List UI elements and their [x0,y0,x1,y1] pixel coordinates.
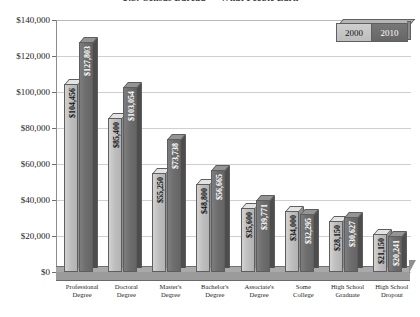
bar-2010-bachelor-s-degree[interactable]: $56,665 [211,170,225,272]
legend: 2000 2010 [336,19,410,43]
bar-2010-associate-s-degree[interactable]: $39,771 [256,200,270,272]
x-axis-label-line: Dropout [364,291,420,299]
bar-group: $34,000$32,295 [277,20,321,272]
bar-group: $21,150$20,241 [366,20,410,272]
bar-value-label: $104,456 [66,88,80,118]
bar-face: $28,150 [329,221,343,272]
y-axis-tick-label: $100,000 [16,87,50,97]
bar-value-label: $35,600 [243,212,257,238]
y-axis-tick-label: $40,000 [21,195,50,205]
legend-item-2010[interactable]: 2010 [372,24,407,41]
y-axis: $140,000$120,000$100,000$80,000$60,000$4… [0,0,54,317]
bar-value-label: $34,000 [287,215,301,241]
legend-item-2000[interactable]: 2000 [337,24,372,41]
bar-value-label: $21,150 [375,238,389,264]
bar-group: $55,250$73,738 [145,20,189,272]
bar-2000-bachelor-s-degree[interactable]: $48,800 [196,184,210,272]
bar-2010-master-s-degree[interactable]: $73,738 [167,139,181,272]
y-axis-tick-label: $60,000 [21,159,50,169]
bar-value-label: $55,250 [154,177,168,203]
bar-2010-high-school-dropout[interactable]: $20,241 [388,236,402,272]
bar-2010-doctoral-degree[interactable]: $103,054 [123,87,137,272]
bar-value-label: $39,771 [258,204,272,230]
bar-face: $21,150 [373,234,387,272]
y-axis-tick-label: $20,000 [21,231,50,241]
bar-group: $85,400$103,054 [100,20,144,272]
bar-value-label: $20,241 [390,240,404,266]
bar-group: $48,800$56,665 [189,20,233,272]
bar-2000-high-school-dropout[interactable]: $21,150 [373,234,387,272]
bar-2000-master-s-degree[interactable]: $55,250 [152,173,166,272]
bar-face: $85,400 [108,118,122,272]
bar-series-container: $104,456$127,803$85,400$103,054$55,250$7… [56,20,410,272]
bar-value-label: $103,054 [125,91,139,121]
bar-2000-doctoral-degree[interactable]: $85,400 [108,118,122,272]
bar-face: $48,800 [196,184,210,272]
bar-value-label: $32,295 [302,218,316,244]
bar-value-label: $127,803 [81,46,95,76]
bar-face: $104,456 [64,84,78,272]
bar-face: $73,738 [167,139,181,272]
bar-2000-associate-s-degree[interactable]: $35,600 [241,208,255,272]
bar-value-label: $56,665 [213,174,227,200]
bar-value-label: $85,400 [110,122,124,148]
floor-right-bevel [409,260,416,273]
bar-face: $32,295 [300,214,314,272]
bar-face: $103,054 [123,87,137,272]
y-axis-tick-label: $120,000 [16,51,50,61]
bar-face: $20,241 [388,236,402,272]
bar-2010-high-school-graduate[interactable]: $30,627 [344,217,358,272]
legend-label-2000: 2000 [345,28,363,38]
y-axis-tick-label: $0 [41,267,50,277]
legend-box: 2000 2010 [336,23,408,42]
bar-group: $28,150$30,627 [322,20,366,272]
y-axis-tick-label: $140,000 [16,15,50,25]
bar-face: $35,600 [241,208,255,272]
legend-label-2010: 2010 [381,28,399,38]
bar-group: $104,456$127,803 [56,20,100,272]
bar-2000-some-college[interactable]: $34,000 [285,211,299,272]
bar-group: $35,600$39,771 [233,20,277,272]
bar-face: $30,627 [344,217,358,272]
bar-face: $127,803 [79,42,93,272]
bar-2010-some-college[interactable]: $32,295 [300,214,314,272]
y-axis-tick-label: $80,000 [21,123,50,133]
bar-2010-professional-degree[interactable]: $127,803 [79,42,93,272]
bar-face: $34,000 [285,211,299,272]
x-axis-label: High SchoolDropout [364,283,420,300]
bar-2000-professional-degree[interactable]: $104,456 [64,84,78,272]
page-title: U.S. Census Bureau — What People Earn [0,0,420,1]
bar-2000-high-school-graduate[interactable]: $28,150 [329,221,343,272]
bar-face: $55,250 [152,173,166,272]
bar-value-label: $73,738 [169,143,183,169]
x-axis-labels: ProfessionalDegreeDoctoralDegreeMaster's… [56,283,416,313]
bar-face: $39,771 [256,200,270,272]
floor-front [56,272,410,281]
bar-value-label: $28,150 [331,225,345,251]
bar-value-label: $30,627 [346,221,360,247]
bar-value-label: $48,800 [198,188,212,214]
x-axis-label-line: High School [364,283,420,291]
bar-face: $56,665 [211,170,225,272]
